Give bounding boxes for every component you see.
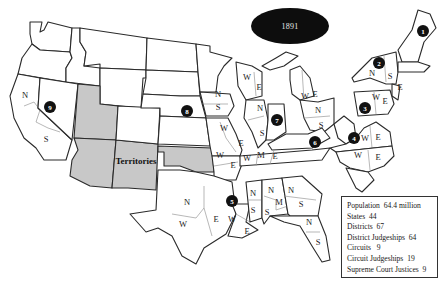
circuit-marker-6: 6 [309, 136, 321, 148]
svg-text:4: 4 [352, 135, 356, 143]
stat-district-judgeships: District Judgeships 64 [347, 233, 437, 244]
district-label: W [354, 150, 362, 160]
stat-supreme-court-justices: Supreme Court Justices 9 [347, 265, 437, 276]
state-mississippi [246, 180, 262, 222]
year-badge: 1891 [251, 8, 329, 44]
territory-oklahoma-indian [158, 146, 214, 172]
district-label: N [315, 105, 321, 115]
district-label: W [361, 133, 369, 143]
territory-arizona [70, 138, 116, 188]
district-label: N [257, 103, 263, 113]
stat-states: States 44 [347, 212, 437, 223]
district-label: N [250, 188, 256, 198]
statistics-legend: Population 64.4 million States 44 Distri… [341, 196, 438, 278]
district-label: E [375, 152, 380, 162]
district-label: N [288, 185, 294, 195]
district-label: N [184, 197, 190, 207]
district-label: N [22, 90, 28, 100]
circuit-marker-3: 3 [359, 102, 371, 114]
district-label: W [179, 219, 187, 229]
year-text: 1891 [281, 22, 298, 31]
district-label: W [372, 92, 380, 102]
district-label: N [215, 89, 221, 99]
state-south-dakota [143, 70, 200, 96]
territories-label: Territories [115, 156, 157, 166]
district-label: E [230, 160, 235, 170]
state-north-dakota [146, 38, 198, 72]
svg-text:5: 5 [230, 198, 234, 206]
district-label: M [257, 150, 265, 160]
district-label: W [220, 123, 228, 133]
stat-districts: Districts 67 [347, 222, 437, 233]
stat-population: Population 64.4 million [347, 201, 437, 212]
stat-circuit-judgeships: Circuit Judgeships 19 [347, 254, 437, 265]
district-label: W [216, 150, 224, 160]
svg-text:9: 9 [48, 104, 52, 112]
svg-text:6: 6 [313, 139, 317, 147]
state-montana [80, 28, 147, 70]
district-label: S [44, 134, 49, 144]
district-label: S [299, 199, 304, 209]
state-michigan-upper [262, 52, 298, 70]
circuit-marker-4: 4 [348, 132, 360, 144]
state-kansas [158, 116, 210, 146]
state-mass-ct-ri [398, 62, 430, 72]
circuit-marker-9: 9 [44, 101, 56, 113]
district-label: S [316, 237, 321, 247]
svg-text:1: 1 [421, 28, 425, 36]
district-label: S [265, 207, 270, 217]
state-georgia [282, 176, 322, 216]
district-label: W [243, 153, 251, 163]
circuit-marker-7: 7 [271, 114, 283, 126]
svg-text:2: 2 [377, 60, 381, 68]
district-label: N [369, 68, 375, 78]
district-label: E [397, 82, 402, 92]
state-florida [270, 216, 330, 262]
district-label: S [251, 205, 256, 215]
district-label: E [272, 151, 277, 161]
circuit-marker-8: 8 [181, 105, 193, 117]
district-label: S [319, 120, 324, 130]
district-label: W [301, 91, 309, 101]
district-label: E [244, 226, 249, 236]
district-label: E [375, 132, 380, 142]
district-label: S [388, 71, 393, 81]
svg-text:8: 8 [185, 108, 189, 116]
state-minnesota [196, 44, 232, 92]
state-ohio [300, 98, 334, 132]
district-label: S [216, 102, 221, 112]
district-label: E [312, 89, 317, 99]
district-label: N [306, 217, 312, 227]
district-label: N [268, 185, 274, 195]
district-label: S [260, 128, 265, 138]
circuit-marker-5: 5 [226, 195, 238, 207]
state-maine-nh-vt [398, 10, 436, 62]
district-label: W [228, 214, 236, 224]
svg-text:3: 3 [363, 105, 367, 113]
circuit-marker-1: 1 [417, 25, 429, 37]
district-label: W [243, 72, 251, 82]
stat-circuits: Circuits 9 [347, 243, 437, 254]
svg-text:7: 7 [275, 117, 279, 125]
state-tennessee [240, 148, 330, 166]
district-label: E [256, 82, 261, 92]
district-label: E [213, 214, 218, 224]
district-label: E [382, 96, 387, 106]
district-label: M [275, 197, 283, 207]
district-label: E [238, 138, 243, 148]
state-wyoming [100, 68, 146, 108]
state-colorado [116, 106, 160, 144]
